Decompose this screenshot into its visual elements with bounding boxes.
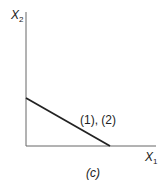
y-axis-label: X2 (11, 8, 23, 24)
diagram-canvas (0, 0, 161, 183)
x-axis-label: X1 (145, 150, 157, 166)
caption: (c) (86, 166, 100, 180)
line-label: (1), (2) (80, 113, 116, 127)
